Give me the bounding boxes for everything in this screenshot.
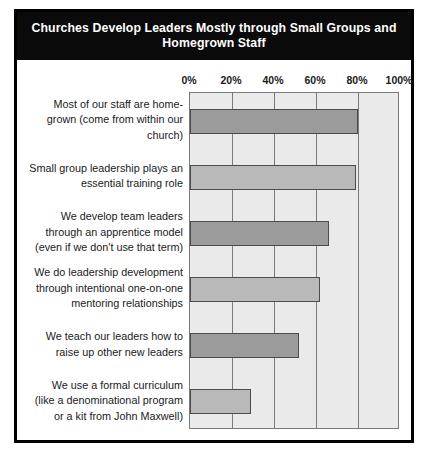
category-label-line: through an apprentice model [21,225,183,241]
x-tick-label: 20% [220,74,241,86]
category-label-line: or a kit from John Maxwell) [21,409,183,425]
category-label-line: through intentional one-on-one [21,281,183,297]
category-label-line: essential training role [21,176,183,192]
bar [190,277,320,302]
category-label: We use a formal curriculum(like a denomi… [21,378,189,425]
category-label-line: grown (come from within our [21,112,183,128]
category-label-line: We use a formal curriculum [21,378,183,394]
gridline [232,93,233,428]
chart-figure: Churches Develop Leaders Mostly through … [14,9,414,443]
category-label-line: We teach our leaders how to [21,329,183,345]
category-label-line: raise up other new leaders [21,345,183,361]
x-tick-label: 40% [262,74,283,86]
category-label-line: (like a denominational program [21,393,183,409]
category-label-line: We do leadership development [21,265,183,281]
category-label: Most of our staff are home-grown (come f… [21,97,189,144]
bar [190,109,358,134]
x-tick-label: 80% [346,74,367,86]
x-tick-label: 100% [386,74,413,86]
category-label: We teach our leaders how toraise up othe… [21,329,189,360]
bar [190,389,251,414]
x-axis-tick-labels: 0%20%40%60%80%100% [189,74,399,92]
gridline [274,93,275,428]
bar [190,221,329,246]
category-label-line: church) [21,128,183,144]
category-label-line: Small group leadership plays an [21,161,183,177]
x-tick-label: 0% [181,74,196,86]
x-tick-label: 60% [304,74,325,86]
gridline [358,93,359,428]
chart-body: 0%20%40%60%80%100% Most of our staff are… [17,60,411,440]
category-label-line: (even if we don't use that term) [21,240,183,256]
plot-area [189,92,399,429]
category-labels-column: Most of our staff are home-grown (come f… [17,92,189,429]
gridline [316,93,317,428]
bar [190,333,299,358]
category-label-line: We develop team leaders [21,209,183,225]
category-label: We do leadership developmentthrough inte… [21,265,189,312]
chart-title-band: Churches Develop Leaders Mostly through … [17,12,411,60]
chart-title: Churches Develop Leaders Mostly through … [31,21,397,52]
category-label-line: mentoring relationships [21,296,183,312]
bar [190,165,356,190]
category-label: We develop team leadersthrough an appren… [21,209,189,256]
category-label-line: Most of our staff are home- [21,97,183,113]
category-label: Small group leadership plays anessential… [21,161,189,192]
